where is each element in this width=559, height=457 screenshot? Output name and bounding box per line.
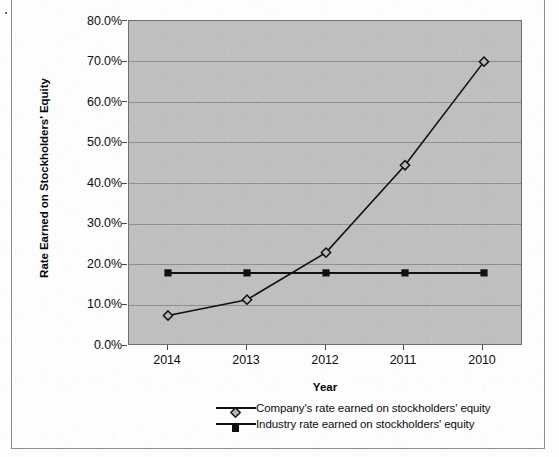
x-tick-mark <box>167 345 168 350</box>
y-tick-label: 0.0% <box>62 338 122 352</box>
data-point-square <box>480 269 487 276</box>
chart-page: 80.0% 70.0% 60.0% 50.0% 40.0% 30.0% 20.0… <box>0 0 559 457</box>
chart-legend: Company's rate earned on stockholders' e… <box>128 400 522 432</box>
y-tick-mark <box>122 61 127 62</box>
plot-area <box>128 20 522 345</box>
legend-label-industry: Industry rate earned on stockholders' eq… <box>256 418 474 430</box>
scan-speck <box>5 12 7 14</box>
y-tick-label: 50.0% <box>62 135 122 149</box>
y-tick-mark <box>122 20 127 21</box>
x-tick-label: 2010 <box>442 353 522 367</box>
series-industry-line <box>164 269 487 276</box>
series-layer <box>129 21 523 346</box>
y-tick-label: 80.0% <box>62 14 122 28</box>
y-tick-label: 10.0% <box>62 297 122 311</box>
y-axis-tick-labels: 80.0% 70.0% 60.0% 50.0% 40.0% 30.0% 20.0… <box>60 0 122 457</box>
y-tick-mark <box>122 223 127 224</box>
y-tick-mark <box>122 142 127 143</box>
x-axis-title: Year <box>128 381 522 393</box>
y-tick-mark <box>122 345 127 346</box>
x-tick-label: 2011 <box>363 353 443 367</box>
data-point-diamond <box>163 311 172 320</box>
x-tick-mark <box>403 345 404 350</box>
y-tick-label: 40.0% <box>62 176 122 190</box>
x-tick-label: 2014 <box>127 353 207 367</box>
y-tick-label: 20.0% <box>62 257 122 271</box>
y-tick-label: 70.0% <box>62 54 122 68</box>
x-tick-mark <box>325 345 326 350</box>
legend-key-company <box>216 402 256 414</box>
data-point-square <box>401 269 408 276</box>
y-tick-label: 30.0% <box>62 216 122 230</box>
x-tick-label: 2013 <box>206 353 286 367</box>
x-tick-label: 2012 <box>285 353 365 367</box>
y-tick-mark <box>122 304 127 305</box>
y-tick-mark <box>122 264 127 265</box>
legend-key-industry <box>216 418 256 430</box>
y-axis-title: Rate Earned on Stockholders' Equity <box>38 48 50 308</box>
x-tick-mark <box>246 345 247 350</box>
data-point-square <box>164 269 171 276</box>
y-tick-mark <box>122 183 127 184</box>
legend-item-company: Company's rate earned on stockholders' e… <box>128 400 522 416</box>
y-tick-mark <box>122 101 127 102</box>
data-point-diamond <box>242 295 251 304</box>
filled-square-icon <box>230 420 241 438</box>
y-tick-label: 60.0% <box>62 95 122 109</box>
series-company-line <box>163 57 488 320</box>
series-path <box>168 62 484 316</box>
legend-item-industry: Industry rate earned on stockholders' eq… <box>128 416 522 432</box>
x-tick-mark <box>482 345 483 350</box>
data-point-square <box>243 269 250 276</box>
legend-label-company: Company's rate earned on stockholders' e… <box>256 402 491 414</box>
data-point-square <box>322 269 329 276</box>
